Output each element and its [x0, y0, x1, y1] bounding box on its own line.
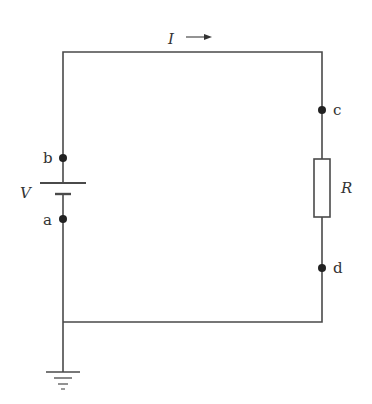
node-c-label: c: [333, 101, 341, 119]
node-d-dot: [318, 264, 326, 272]
node-d-label: d: [333, 259, 343, 277]
node-b-label: b: [43, 149, 53, 167]
current-arrow: [186, 34, 212, 40]
resistor-symbol: [314, 159, 330, 217]
node-a-label: a: [43, 211, 52, 229]
voltage-label: V: [20, 184, 33, 202]
wire-left-top: [63, 52, 322, 183]
wire-right-bottom: [63, 217, 322, 322]
node-b-dot: [59, 154, 67, 162]
wires: [63, 52, 322, 372]
node-c-dot: [318, 106, 326, 114]
node-a-dot: [59, 215, 67, 223]
current-label: I: [167, 30, 175, 48]
ground-icon: [46, 372, 80, 389]
battery-symbol: [40, 183, 86, 194]
circuit-diagram: I V R b a c d: [0, 0, 372, 404]
resistor-label: R: [340, 179, 352, 197]
